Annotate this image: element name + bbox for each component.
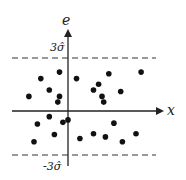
upper-band-label: 3σ̂: [50, 41, 65, 54]
y-axis-label: e: [62, 12, 70, 28]
data-point: [47, 87, 53, 93]
data-point: [103, 134, 109, 140]
data-point: [74, 76, 80, 82]
x-axis-arrow-icon: [156, 107, 164, 115]
data-point: [60, 120, 66, 126]
data-point: [55, 99, 61, 105]
data-point: [101, 99, 107, 105]
data-point: [99, 94, 105, 100]
data-point: [57, 69, 63, 75]
data-point: [77, 136, 83, 142]
y-axis-arrow-icon: [64, 29, 72, 37]
data-point: [120, 139, 126, 145]
data-point: [106, 71, 112, 77]
data-point: [138, 69, 144, 75]
data-point: [65, 117, 71, 123]
data-point: [47, 114, 53, 120]
data-point: [26, 94, 32, 100]
data-point: [111, 120, 117, 126]
residual-plot: e x 3σ̂ -3σ̂: [0, 0, 186, 180]
data-point: [31, 139, 37, 145]
data-point: [96, 81, 102, 87]
data-point: [38, 76, 44, 82]
data-point: [91, 131, 97, 137]
data-point: [57, 94, 63, 100]
scatter-svg: e x 3σ̂ -3σ̂: [0, 0, 186, 180]
data-point: [91, 87, 97, 93]
lower-band-label: -3σ̂: [43, 160, 62, 173]
data-point: [52, 132, 58, 138]
x-axis-label: x: [167, 102, 175, 118]
points-group: [26, 69, 144, 144]
data-point: [133, 131, 139, 137]
data-point: [118, 89, 124, 95]
data-point: [35, 121, 41, 127]
